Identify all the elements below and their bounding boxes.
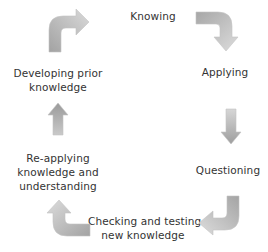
stage-checking: Checking and testing new knowledge <box>88 214 198 242</box>
stage-reapplying: Re-applying knowledge and understanding <box>8 151 108 193</box>
stage-developing-line-2: knowledge <box>4 80 112 94</box>
stage-developing: Developing prior knowledge <box>4 66 112 94</box>
arrow-up-icon <box>47 102 69 136</box>
arrow-down-icon <box>220 108 242 146</box>
stage-knowing-line-1: Knowing <box>118 9 188 23</box>
stage-reapplying-line-1: Re-applying <box>8 151 108 165</box>
curved-arrow-up-right-icon <box>46 6 92 54</box>
stage-developing-line-1: Developing prior <box>4 66 112 80</box>
stage-questioning-line-1: Questioning <box>188 163 268 177</box>
stage-checking-line-1: Checking and testing <box>88 214 198 228</box>
stage-knowing: Knowing <box>118 9 188 23</box>
stage-applying-line-1: Applying <box>190 65 260 79</box>
curved-arrow-down-left-icon <box>196 194 242 236</box>
stage-checking-line-2: new knowledge <box>88 228 198 242</box>
stage-reapplying-line-2: knowledge and <box>8 165 108 179</box>
curved-arrow-left-up-icon <box>46 198 92 240</box>
curved-arrow-right-down-icon <box>194 10 240 54</box>
stage-reapplying-line-3: understanding <box>8 179 108 193</box>
stage-questioning: Questioning <box>188 163 268 177</box>
stage-applying: Applying <box>190 65 260 79</box>
